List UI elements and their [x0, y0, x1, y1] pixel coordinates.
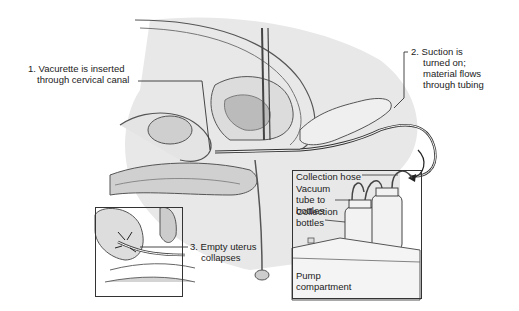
step-2-line1: Suction is — [422, 46, 463, 57]
step-3-number: 3. — [190, 241, 198, 252]
collection-hose-text: Collection hose — [296, 171, 361, 182]
step-1-line2: through cervical canal — [28, 74, 129, 85]
pump-line2: compartment — [296, 281, 351, 292]
step-1-label: 1. Vacurette is inserted through cervica… — [28, 63, 129, 85]
step-2-line4: through tubing — [411, 79, 484, 90]
step-2-number: 2. — [411, 46, 419, 57]
step-1-line1: Vacurette is inserted — [39, 63, 125, 74]
step-2-line3: material flows — [411, 68, 481, 79]
pump-compartment-label: Pump compartment — [296, 270, 351, 292]
step-3-line2: collapses — [190, 252, 241, 263]
inset-collapse-box — [95, 207, 183, 297]
step-2-line2: turned on; — [411, 57, 466, 68]
collection-bottles-label: Collection bottles — [296, 206, 338, 228]
step-1-number: 1. — [28, 63, 36, 74]
pump-line1: Pump — [296, 270, 321, 281]
collection-hose-label: Collection hose — [296, 171, 361, 182]
collection-bottles-line2: bottles — [296, 217, 324, 228]
step-3-line1: Empty uterus — [201, 241, 257, 252]
step-2-label: 2. Suction is turned on; material flows … — [411, 46, 484, 90]
vacuum-tube-line1: Vacuum — [296, 183, 330, 194]
step-3-label: 3. Empty uterus collapses — [190, 241, 257, 263]
collection-bottles-line1: Collection — [296, 206, 338, 217]
vacuum-tube-line2: tube to — [296, 194, 325, 205]
